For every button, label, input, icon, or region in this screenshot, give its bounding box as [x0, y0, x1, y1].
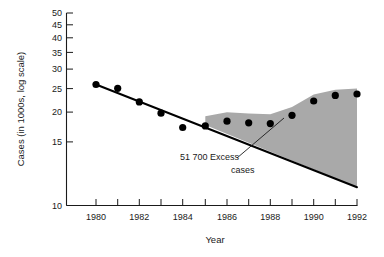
data-point-1992: [353, 90, 360, 97]
data-point-1984: [179, 124, 186, 131]
y-tick-label-45: 45: [52, 20, 62, 30]
y-tick-label-30: 30: [52, 64, 62, 74]
data-point-1990: [310, 97, 317, 104]
data-point-1982: [136, 98, 143, 105]
y-tick-label-40: 40: [52, 33, 62, 43]
excess-cases-shaded-region: [205, 89, 357, 188]
y-axis-ticks: [67, 13, 74, 206]
y-tick-label-25: 25: [52, 84, 62, 94]
x-axis-tick-labels: 1980 1982 1984 1986 1988 1990 1992: [86, 212, 367, 222]
annotation-line-1: 51 700 Excess: [180, 152, 240, 162]
x-tick-label-1988: 1988: [260, 212, 280, 222]
chart-svg: 50 45 40 35 30 25 20 15 10: [0, 0, 384, 257]
y-tick-label-10: 10: [52, 201, 62, 211]
y-axis-tick-labels: 50 45 40 35 30 25 20 15 10: [52, 8, 62, 211]
data-point-1989: [288, 112, 295, 119]
x-axis-ticks: [96, 199, 357, 206]
data-point-1983: [157, 110, 164, 117]
y-axis-title: Cases (in 1000s, log scale): [15, 52, 26, 167]
x-tick-label-1992: 1992: [347, 212, 367, 222]
y-tick-label-15: 15: [52, 137, 62, 147]
y-tick-label-50: 50: [52, 8, 62, 18]
y-tick-label-20: 20: [52, 107, 62, 117]
x-axis-title: Year: [205, 234, 224, 245]
data-point-1991: [332, 92, 339, 99]
data-point-1986: [223, 118, 230, 125]
data-point-1987: [245, 119, 252, 126]
x-tick-label-1986: 1986: [217, 212, 237, 222]
data-point-1985: [202, 122, 209, 129]
x-tick-label-1984: 1984: [173, 212, 193, 222]
data-point-1988: [267, 120, 274, 127]
x-tick-label-1980: 1980: [86, 212, 106, 222]
y-tick-label-35: 35: [52, 48, 62, 58]
x-tick-label-1982: 1982: [129, 212, 149, 222]
annotation-line-2: cases: [231, 165, 255, 175]
data-point-1981: [114, 85, 121, 92]
chart-container: 50 45 40 35 30 25 20 15 10: [0, 0, 384, 257]
data-point-1980: [92, 81, 99, 88]
x-tick-label-1990: 1990: [304, 212, 324, 222]
